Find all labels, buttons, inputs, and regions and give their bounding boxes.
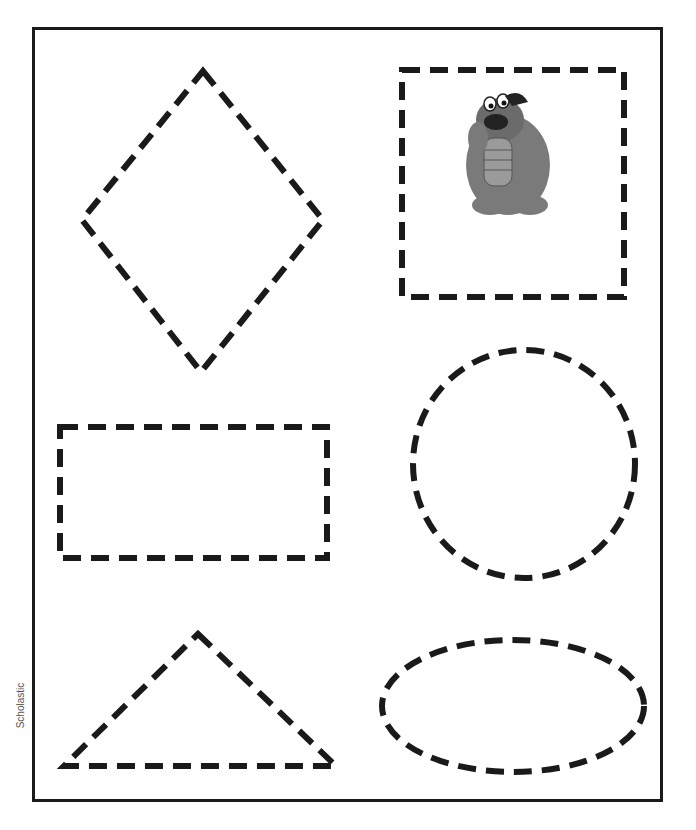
oval-shape [382, 640, 644, 772]
cookie-monster-illustration [466, 93, 550, 215]
publisher-credit: Scholastic [15, 666, 26, 746]
rectangle-shape [60, 427, 327, 558]
diamond-shape [82, 71, 323, 372]
circle-shape [413, 350, 635, 578]
tracing-shapes [0, 0, 696, 830]
triangle-shape [64, 634, 336, 766]
